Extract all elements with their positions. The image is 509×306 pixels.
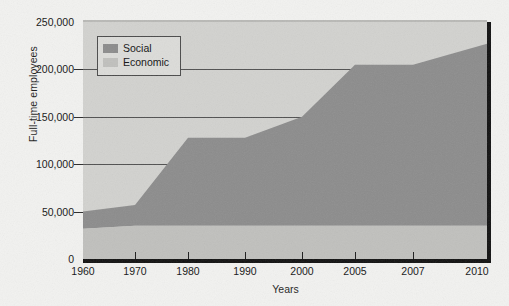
x-tick-label: 1980 bbox=[176, 265, 199, 277]
legend: Social Economic bbox=[97, 36, 181, 76]
y-tick-mark bbox=[74, 117, 83, 118]
series-area-economic bbox=[83, 226, 487, 259]
legend-item-economic: Economic bbox=[103, 56, 174, 69]
x-axis-title-text: Years bbox=[272, 283, 298, 295]
x-tick-mark bbox=[188, 252, 189, 259]
plot-top-edge bbox=[83, 20, 487, 22]
legend-swatch-social bbox=[103, 44, 118, 53]
area-chart: Full-time employees 250,000 200,000 150,… bbox=[0, 0, 509, 306]
plot-area: Social Economic bbox=[83, 22, 487, 259]
legend-label-economic: Economic bbox=[123, 57, 169, 68]
legend-label-social: Social bbox=[123, 43, 152, 54]
x-tick-mark bbox=[245, 252, 246, 259]
y-tick-label: 50,000 bbox=[16, 206, 74, 218]
x-tick-label: 1970 bbox=[123, 265, 146, 277]
x-axis-title: Years bbox=[0, 283, 509, 295]
x-tick-label: 2000 bbox=[290, 265, 313, 277]
y-tick-mark bbox=[74, 69, 83, 70]
y-tick-label: 100,000 bbox=[16, 158, 74, 170]
x-tick-mark bbox=[413, 252, 414, 259]
y-axis-tick-labels: 250,000 200,000 150,000 100,000 50,000 0 bbox=[14, 0, 74, 306]
x-tick-label: 1960 bbox=[71, 265, 94, 277]
y-tick-label: 0 bbox=[16, 253, 74, 265]
legend-item-social: Social bbox=[103, 42, 174, 55]
y-tick-mark bbox=[74, 164, 83, 165]
x-tick-label: 2010 bbox=[465, 265, 488, 277]
y-tick-label: 250,000 bbox=[16, 16, 74, 28]
y-tick-mark bbox=[74, 212, 83, 213]
x-axis-tick-labels: 1960 1970 1980 1990 2000 2005 2007 2010 bbox=[0, 265, 509, 285]
y-tick-label: 150,000 bbox=[16, 111, 74, 123]
legend-swatch-economic bbox=[103, 58, 118, 67]
y-tick-label: 200,000 bbox=[16, 63, 74, 75]
x-tick-label: 2007 bbox=[401, 265, 424, 277]
x-tick-label: 1990 bbox=[233, 265, 256, 277]
x-tick-mark bbox=[355, 252, 356, 259]
plot-bottom-border bbox=[83, 259, 491, 263]
plot-right-border bbox=[487, 22, 491, 263]
x-tick-mark bbox=[302, 252, 303, 259]
x-tick-label: 2005 bbox=[343, 265, 366, 277]
x-tick-mark bbox=[135, 252, 136, 259]
